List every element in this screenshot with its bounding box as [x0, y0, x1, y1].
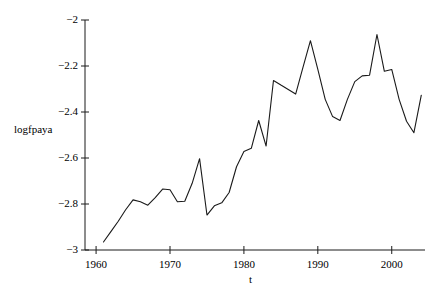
- x-axis-tick-label: 1960: [71, 259, 121, 270]
- y-axis-tick-label: −2.8: [40, 198, 78, 209]
- y-axis-tick-label: −2: [40, 14, 78, 25]
- x-axis-tick-label: 2000: [367, 259, 417, 270]
- x-axis-tick-label: 1990: [293, 259, 343, 270]
- chart-figure: −2−2.2−2.4−2.6−2.8−3 1960197019801990200…: [0, 0, 437, 296]
- y-axis-title: logfpaya: [14, 124, 52, 135]
- x-axis-title: t: [249, 274, 252, 285]
- data-line-logfpaya: [103, 34, 421, 241]
- x-axis-tick-label: 1970: [145, 259, 195, 270]
- y-axis-tick-label: −3: [40, 244, 78, 255]
- y-axis-tick-label: −2.6: [40, 152, 78, 163]
- y-axis-tick-label: −2.4: [40, 106, 78, 117]
- y-axis-tick-label: −2.2: [40, 60, 78, 71]
- x-axis-tick-label: 1980: [219, 259, 269, 270]
- data-series-group: [103, 34, 421, 241]
